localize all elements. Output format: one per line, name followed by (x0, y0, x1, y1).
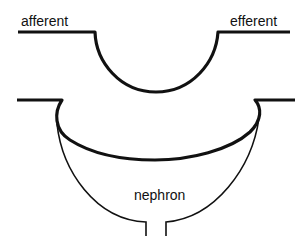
diagram-canvas: afferent efferent nephron (0, 0, 308, 247)
capsule-inner-wall (17, 100, 295, 160)
nephron-label: nephron (134, 188, 185, 202)
efferent-label: efferent (230, 14, 277, 28)
upper-vessel-path (18, 32, 290, 92)
afferent-label: afferent (21, 14, 68, 28)
diagram-shapes (0, 0, 308, 247)
